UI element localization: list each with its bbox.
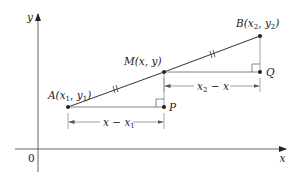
label-q: Q <box>266 66 275 79</box>
label-m: M(x, y) <box>123 55 161 67</box>
label-p: P <box>168 101 177 113</box>
point-p <box>162 105 166 109</box>
y-axis-label: y <box>26 11 34 23</box>
midpoint-diagram: y 0 x x − x1 <box>0 0 303 179</box>
point-b <box>258 34 262 38</box>
x-axis-label: x <box>280 152 286 164</box>
dimension-x-minus-x1: x − x1 <box>68 113 164 130</box>
dimension-label-x2-minus-x: x2 − x <box>197 80 229 94</box>
origin-label: 0 <box>28 152 35 164</box>
segment-mb <box>164 36 260 72</box>
label-a: A(x1, y1) <box>47 89 91 103</box>
dimension-label-x-minus-x1: x − x1 <box>103 116 135 130</box>
point-m <box>162 70 166 74</box>
congruence-mark-am <box>113 85 118 93</box>
point-q <box>258 70 262 74</box>
label-b: B(x2, y2) <box>235 17 279 31</box>
point-a <box>66 105 70 109</box>
dimension-x2-minus-x: x2 − x <box>164 78 260 94</box>
